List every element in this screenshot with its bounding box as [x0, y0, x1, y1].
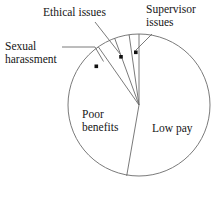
- pie-chart-svg: [0, 0, 220, 201]
- slice-label-sexual-harassment-line2: harassment: [5, 53, 57, 66]
- slice-label-poor-benefits: Poor benefits: [82, 108, 118, 134]
- marker-dot-supervisor-issues: [134, 51, 138, 55]
- slice-label-ethical-issues: Ethical issues: [43, 6, 106, 19]
- slice-label-supervisor-issues-line2: issues: [146, 16, 196, 29]
- pie-chart-figure: Sexual harassment Ethical issues Supervi…: [0, 0, 220, 201]
- slice-label-supervisor-issues-line1: Supervisor: [146, 3, 196, 16]
- slice-label-poor-benefits-line1: Poor: [82, 108, 118, 121]
- slice-label-sexual-harassment-line1: Sexual: [5, 40, 57, 53]
- slice-label-sexual-harassment: Sexual harassment: [5, 40, 57, 65]
- marker-dot-ethical-issues: [119, 55, 123, 59]
- marker-dot-sexual-harassment: [95, 65, 99, 69]
- slice-label-low-pay-line1: Low pay: [152, 122, 193, 135]
- slice-label-supervisor-issues: Supervisor issues: [146, 3, 196, 28]
- slice-label-poor-benefits-line2: benefits: [82, 121, 118, 134]
- slice-label-low-pay: Low pay: [152, 122, 193, 135]
- slice-label-ethical-issues-line1: Ethical issues: [43, 6, 106, 19]
